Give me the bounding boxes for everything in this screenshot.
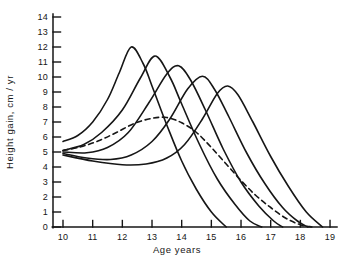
y-tick-label: 7 (43, 117, 48, 127)
y-tick-label: 5 (43, 147, 48, 157)
y-tick-label: 11 (38, 57, 48, 67)
y-tick-label: 3 (43, 177, 48, 187)
series-layer (63, 47, 323, 227)
x-tick-label: 19 (325, 232, 336, 242)
y-tick-label: 9 (43, 87, 48, 97)
x-tick-label: 12 (117, 232, 128, 242)
x-tick-label: 11 (88, 232, 98, 242)
y-tick-label: 10 (37, 72, 48, 82)
tick-labels-layer: 0123456789101112131410111213141516171819 (37, 12, 335, 241)
y-tick-label: 8 (43, 102, 48, 112)
y-tick-label: 12 (37, 42, 48, 52)
y-tick-label: 14 (37, 12, 48, 22)
x-tick-label: 13 (147, 232, 158, 242)
x-tick-label: 10 (58, 232, 69, 242)
x-tick-label: 16 (236, 232, 247, 242)
x-axis-title: Age years (153, 244, 201, 255)
series-line-individual-5-latest-peak (63, 86, 323, 227)
x-tick-label: 18 (295, 232, 306, 242)
growth-velocity-chart: 0123456789101112131410111213141516171819… (0, 0, 356, 269)
y-tick-label: 1 (43, 207, 48, 217)
y-tick-label: 6 (43, 132, 48, 142)
ticks-layer (53, 17, 330, 227)
series-line-individual-4 (63, 76, 308, 227)
y-tick-label: 4 (43, 162, 48, 172)
growth-velocity-figure: 0123456789101112131410111213141516171819… (0, 0, 356, 269)
x-tick-label: 15 (206, 232, 217, 242)
y-tick-label: 2 (43, 192, 48, 202)
series-line-individual-3 (63, 66, 283, 227)
y-tick-label: 0 (43, 222, 48, 232)
x-tick-label: 17 (265, 232, 276, 242)
y-tick-label: 13 (37, 27, 48, 37)
y-axis-title: Height gain, cm / yr (4, 75, 15, 169)
x-tick-label: 14 (176, 232, 187, 242)
